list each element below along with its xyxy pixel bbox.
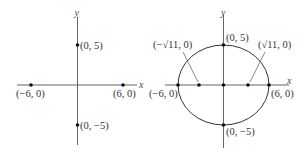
label-r-0-5: (0, 5) <box>226 32 249 44</box>
label-0-5: (0, 5) <box>80 40 103 52</box>
point-0-5 <box>76 43 80 47</box>
label-neg6-0: (−6, 0) <box>16 88 45 100</box>
leader-line-pos-focus <box>250 52 265 82</box>
point-r-0-5 <box>222 43 226 47</box>
point-pos-sqrt11 <box>246 83 250 87</box>
leader-line-neg-focus <box>183 52 198 82</box>
label-0-neg5: (0, −5) <box>80 120 109 132</box>
label-r-0-neg5: (0, −5) <box>226 126 255 138</box>
point-r-neg6-0 <box>176 83 180 87</box>
label-pos-sqrt11: (√11, 0) <box>258 39 292 51</box>
point-r-0-neg5 <box>222 123 226 127</box>
label-r-6-0: (6, 0) <box>271 88 294 100</box>
label-neg-sqrt11: (−√11, 0) <box>153 39 193 51</box>
point-neg6-0 <box>29 83 33 87</box>
point-origin <box>222 83 226 87</box>
point-r-6-0 <box>267 83 271 87</box>
label-6-0: (6, 0) <box>113 88 136 100</box>
right-y-axis-label: y <box>220 7 226 18</box>
point-6-0 <box>121 83 125 87</box>
left-y-axis-label: y <box>74 7 80 18</box>
left-diagram: x y (0, 5) (−6, 0) (6, 0) (0, −5) <box>16 7 144 145</box>
point-neg-sqrt11 <box>197 83 201 87</box>
figure: x y (0, 5) (−6, 0) (6, 0) (0, −5) x y (0… <box>0 0 306 155</box>
point-0-neg5 <box>76 123 80 127</box>
left-x-axis-label: x <box>138 79 144 90</box>
label-r-neg6-0: (−6, 0) <box>149 88 178 100</box>
right-x-axis-label: x <box>286 75 292 86</box>
right-diagram: x y (0, 5) (−√11, 0) (√11, 0) (−6, 0) (6… <box>149 7 294 148</box>
